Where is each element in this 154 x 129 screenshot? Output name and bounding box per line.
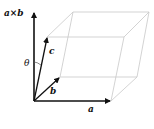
- theta-label: θ: [24, 58, 30, 68]
- vector-a-label: a: [88, 104, 94, 114]
- theta-arc: [34, 62, 41, 65]
- parallelepiped-edges: [47, 12, 149, 101]
- parallelepiped-diagram: a×b θ c b a: [0, 0, 154, 129]
- vector-c-label: c: [49, 46, 55, 56]
- cross-product-label: a×b: [4, 8, 24, 18]
- vector-b-label: b: [50, 86, 56, 96]
